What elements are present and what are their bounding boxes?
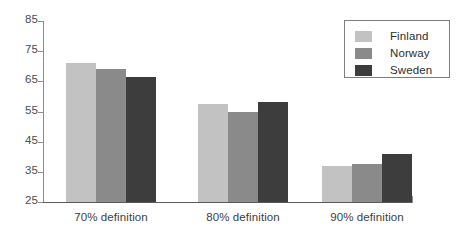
- legend-label: Norway: [390, 47, 430, 59]
- bar-sweden-1: [126, 77, 156, 202]
- bar-sweden-2: [258, 102, 288, 202]
- bar-norway-1: [96, 69, 126, 202]
- y-tick-label: 55: [25, 104, 38, 116]
- bar-group: [198, 21, 288, 202]
- bar-norway-3: [352, 164, 382, 202]
- legend-swatch-finland: [355, 31, 372, 42]
- legend-swatch-norway: [355, 48, 372, 59]
- y-tick-label: 45: [25, 134, 38, 146]
- y-tick-label: 75: [25, 43, 38, 55]
- y-tick-label: 65: [25, 73, 38, 85]
- legend-label: Sweden: [390, 64, 432, 76]
- x-axis-line: [43, 202, 413, 203]
- legend-swatch-sweden: [355, 65, 372, 76]
- bar-group: [66, 21, 156, 202]
- bar-finland-1: [66, 63, 96, 202]
- y-tick-label: 85: [25, 13, 38, 25]
- bar-finland-2: [198, 104, 228, 202]
- legend-item: Finland: [355, 29, 428, 43]
- legend-item: Sweden: [355, 63, 432, 77]
- bar-chart: 85756555453525 70% definition80% definit…: [0, 0, 456, 242]
- bar-sweden-3: [382, 154, 412, 202]
- legend-label: Finland: [390, 30, 428, 42]
- y-tick-label: 35: [25, 164, 38, 176]
- x-axis-label: 80% definition: [173, 211, 313, 223]
- x-axis-label: 70% definition: [41, 211, 181, 223]
- bar-norway-2: [228, 112, 258, 203]
- bar-finland-3: [322, 166, 352, 202]
- legend-item: Norway: [355, 46, 430, 60]
- y-tick-label: 25: [25, 194, 38, 206]
- legend: FinlandNorwaySweden: [344, 20, 450, 78]
- x-axis-label: 90% definition: [297, 211, 437, 223]
